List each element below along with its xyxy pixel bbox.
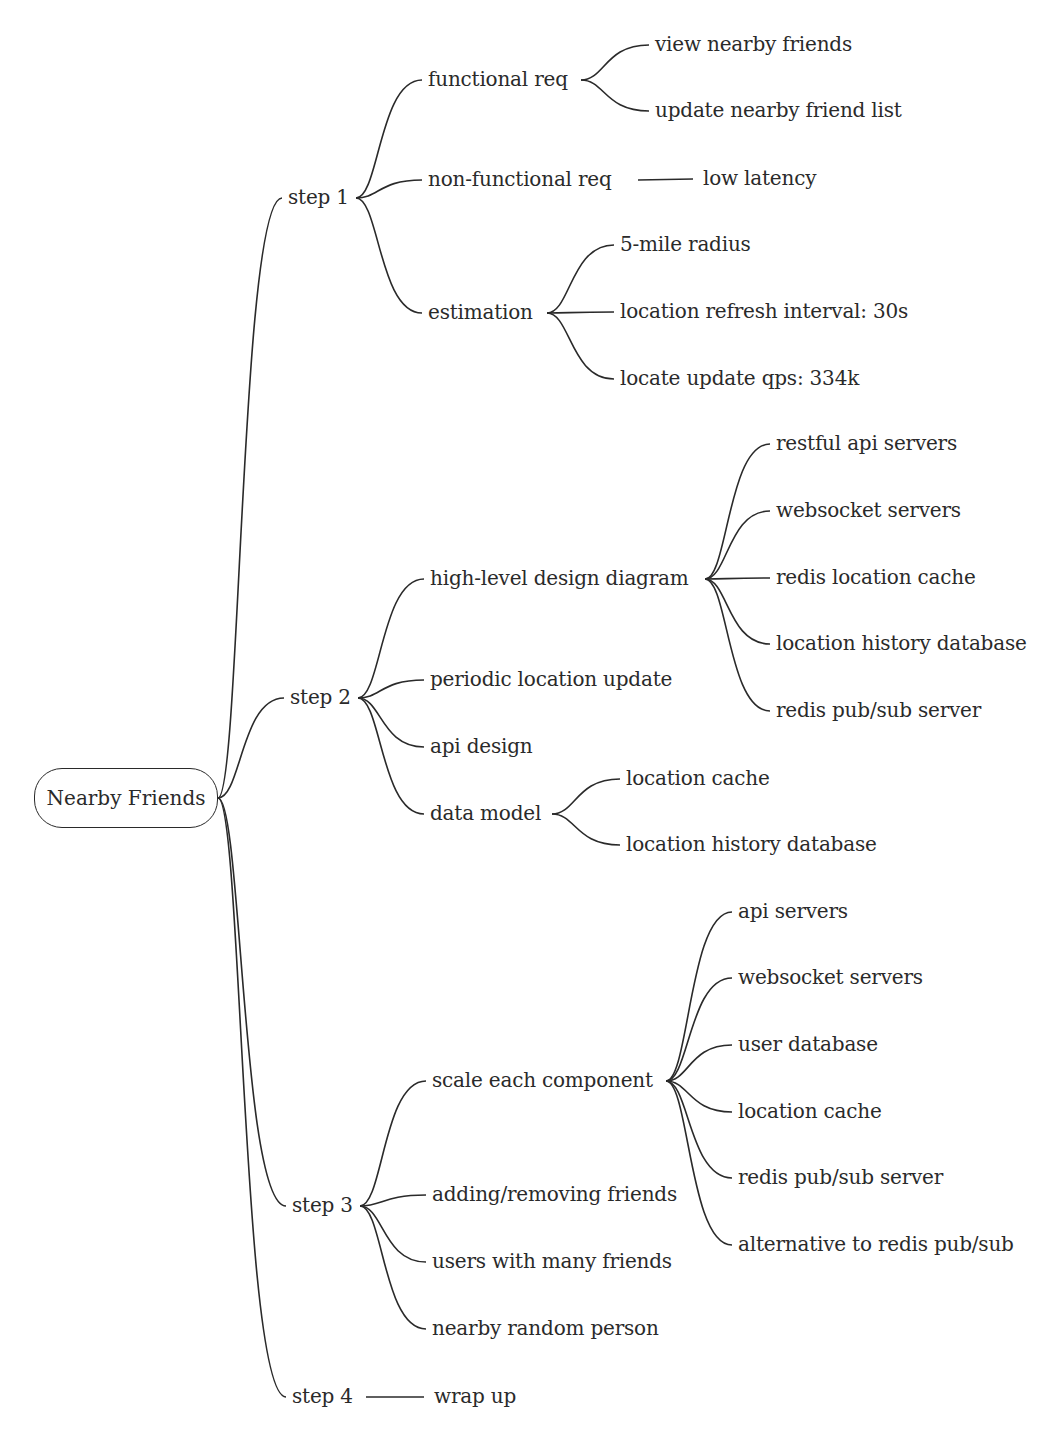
node-restful[interactable]: restful api servers — [776, 431, 957, 455]
connector-estimation-to-refresh_interval — [547, 312, 614, 313]
node-loc-hist-db[interactable]: location history database — [776, 631, 1027, 655]
connector-root-to-step4 — [218, 798, 286, 1397]
node-step3[interactable]: step 3 — [292, 1193, 353, 1217]
node-ws-servers[interactable]: websocket servers — [776, 498, 961, 522]
connector-scale-to-alt_pubsub — [666, 1081, 732, 1245]
node-update-list[interactable]: update nearby friend list — [655, 98, 902, 122]
node-refresh-interval[interactable]: location refresh interval: 30s — [620, 299, 908, 323]
connector-nonfunc_req-to-low_latency — [638, 179, 693, 180]
node-alt-pubsub[interactable]: alternative to redis pub/sub — [738, 1232, 1014, 1256]
connector-step2-to-data_model — [358, 698, 424, 814]
mind-map-canvas: Nearby Friends step 1functional reqview … — [0, 0, 1058, 1449]
node-periodic[interactable]: periodic location update — [430, 667, 672, 691]
node-update-qps[interactable]: locate update qps: 334k — [620, 366, 859, 390]
node-api-servers[interactable]: api servers — [738, 899, 848, 923]
connector-hld-to-redis_loc_cache — [705, 578, 770, 579]
connector-hld-to-restful — [705, 444, 770, 579]
connector-data_model-to-dm_loc_cache — [552, 779, 620, 814]
root-node-label: Nearby Friends — [47, 786, 206, 810]
connector-root-to-step1 — [218, 198, 282, 798]
node-step4[interactable]: step 4 — [292, 1384, 353, 1408]
connector-data_model-to-dm_loc_hist — [552, 814, 620, 845]
node-user-db[interactable]: user database — [738, 1032, 878, 1056]
node-redis-pubsub2[interactable]: redis pub/sub server — [738, 1165, 943, 1189]
node-functional-req[interactable]: functional req — [428, 67, 568, 91]
node-hld[interactable]: high-level design diagram — [430, 566, 689, 590]
node-many-friends[interactable]: users with many friends — [432, 1249, 672, 1273]
connector-functional_req-to-update_list — [581, 80, 649, 111]
connector-step3-to-scale — [360, 1081, 426, 1206]
node-estimation[interactable]: estimation — [428, 300, 533, 324]
connector-scale-to-ws_servers2 — [666, 978, 732, 1081]
node-ws-servers2[interactable]: websocket servers — [738, 965, 923, 989]
node-redis-pubsub[interactable]: redis pub/sub server — [776, 698, 981, 722]
node-loc-cache2[interactable]: location cache — [738, 1099, 882, 1123]
node-redis-loc-cache[interactable]: redis location cache — [776, 565, 976, 589]
node-low-latency[interactable]: low latency — [703, 166, 816, 190]
node-view-nearby[interactable]: view nearby friends — [655, 32, 852, 56]
node-mile-radius[interactable]: 5-mile radius — [620, 232, 751, 256]
node-scale[interactable]: scale each component — [432, 1068, 653, 1092]
node-adding[interactable]: adding/removing friends — [432, 1182, 677, 1206]
node-step2[interactable]: step 2 — [290, 685, 351, 709]
connector-scale-to-loc_cache2 — [666, 1081, 732, 1112]
connector-step1-to-estimation — [356, 198, 422, 313]
node-random-person[interactable]: nearby random person — [432, 1316, 659, 1340]
connector-estimation-to-mile_radius — [547, 245, 614, 313]
node-dm-loc-hist[interactable]: location history database — [626, 832, 877, 856]
connector-root-to-step3 — [218, 798, 286, 1206]
node-dm-loc-cache[interactable]: location cache — [626, 766, 770, 790]
node-data-model[interactable]: data model — [430, 801, 541, 825]
node-step1[interactable]: step 1 — [288, 185, 349, 209]
root-node-nearby-friends[interactable]: Nearby Friends — [34, 768, 218, 828]
node-api-design[interactable]: api design — [430, 734, 532, 758]
connector-scale-to-redis_pubsub2 — [666, 1081, 732, 1178]
connector-scale-to-user_db — [666, 1045, 732, 1081]
connector-functional_req-to-view_nearby — [581, 45, 649, 80]
node-nonfunc-req[interactable]: non-functional req — [428, 167, 612, 191]
connector-hld-to-redis_pubsub — [705, 579, 770, 711]
connector-estimation-to-update_qps — [547, 313, 614, 379]
connector-step3-to-random_person — [360, 1206, 426, 1329]
node-wrap-up[interactable]: wrap up — [434, 1384, 516, 1408]
